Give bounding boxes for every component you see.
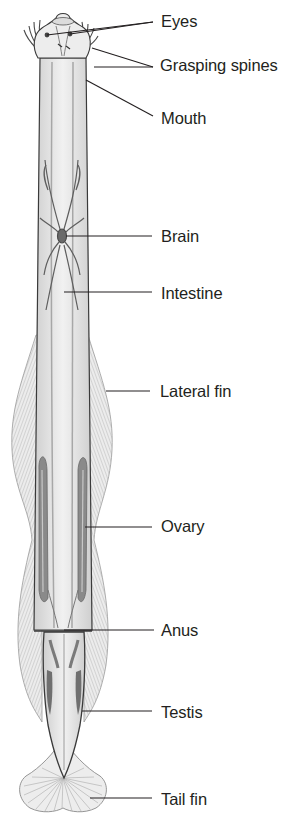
leader-spines-upper: [92, 48, 153, 67]
label-intestine: Intestine: [161, 285, 222, 302]
head: [24, 14, 98, 59]
arrow-worm-diagram: [0, 0, 303, 821]
trunk: [34, 58, 92, 631]
label-ovary: Ovary: [161, 518, 205, 535]
label-lateral-fin: Lateral fin: [160, 383, 231, 400]
label-grasping-spines: Grasping spines: [160, 57, 278, 74]
label-testis: Testis: [161, 704, 203, 721]
brain-ganglion: [58, 229, 67, 243]
label-tail-fin: Tail fin: [161, 791, 207, 808]
label-mouth: Mouth: [161, 110, 206, 127]
label-eyes: Eyes: [161, 13, 197, 30]
label-brain: Brain: [161, 228, 199, 245]
label-anus: Anus: [161, 622, 198, 639]
leader-mouth: [86, 80, 153, 116]
